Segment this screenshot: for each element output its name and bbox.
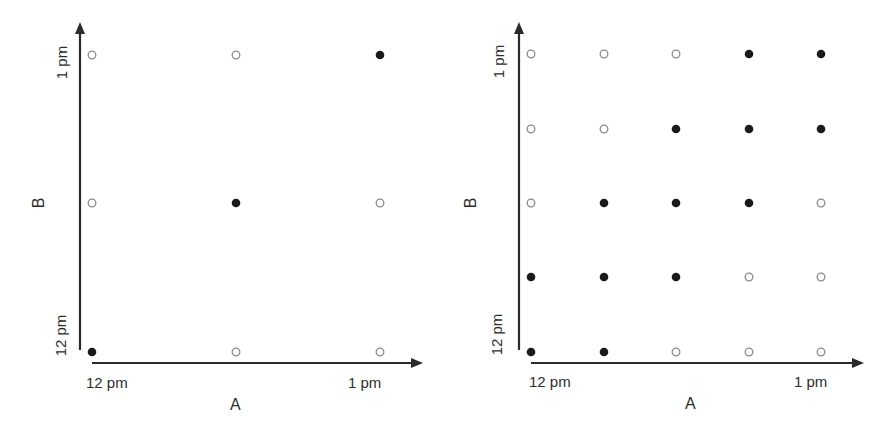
- filled-dot: [376, 51, 385, 60]
- y-tick-end-label: 1 pm: [490, 45, 507, 78]
- open-dot: [600, 125, 608, 133]
- open-dot: [672, 348, 680, 356]
- filled-dot: [88, 348, 97, 357]
- x-axis-label: A: [685, 395, 696, 413]
- filled-dot: [672, 125, 681, 134]
- open-dot: [745, 348, 753, 356]
- open-dot: [376, 199, 384, 207]
- filled-dot: [745, 50, 754, 59]
- filled-dot: [817, 50, 826, 59]
- open-dot: [376, 348, 384, 356]
- open-dot: [88, 51, 96, 59]
- filled-dot: [672, 273, 681, 282]
- open-dot: [88, 199, 96, 207]
- open-dot: [745, 273, 753, 281]
- filled-dot: [672, 199, 681, 208]
- open-dot: [817, 273, 825, 281]
- y-tick-end-label: 1 pm: [53, 46, 70, 79]
- right-panel: 1 pm 12 pm B 12 pm 1 pm A: [446, 0, 892, 430]
- open-dot: [817, 348, 825, 356]
- open-dot: [232, 51, 240, 59]
- right-plot: [446, 0, 892, 430]
- y-tick-start-label: 12 pm: [52, 315, 69, 357]
- open-dot: [600, 50, 608, 58]
- filled-dot: [600, 273, 609, 282]
- filled-dot: [745, 199, 754, 208]
- y-axis-label: B: [462, 198, 480, 209]
- x-tick-end-label: 1 pm: [348, 374, 381, 391]
- open-dot: [527, 125, 535, 133]
- open-dot: [232, 348, 240, 356]
- y-axis-arrow-icon: [75, 22, 85, 34]
- y-axis-arrow-icon: [514, 22, 524, 34]
- filled-dot: [600, 348, 609, 357]
- x-tick-start-label: 12 pm: [86, 374, 128, 391]
- open-dot: [672, 50, 680, 58]
- x-axis-label: A: [230, 396, 241, 414]
- x-axis-arrow-icon: [852, 358, 864, 368]
- filled-dot: [745, 125, 754, 134]
- open-dot: [527, 50, 535, 58]
- filled-dot: [527, 273, 536, 282]
- filled-dot: [527, 348, 536, 357]
- y-tick-start-label: 12 pm: [488, 314, 505, 356]
- open-dot: [817, 199, 825, 207]
- filled-dot: [600, 199, 609, 208]
- x-tick-end-label: 1 pm: [794, 373, 827, 390]
- y-axis-label: B: [30, 198, 48, 209]
- x-axis-arrow-icon: [411, 358, 423, 368]
- x-tick-start-label: 12 pm: [529, 373, 571, 390]
- left-panel: 1 pm 12 pm B 12 pm 1 pm A: [0, 0, 446, 430]
- filled-dot: [232, 199, 241, 208]
- filled-dot: [817, 125, 826, 134]
- open-dot: [527, 199, 535, 207]
